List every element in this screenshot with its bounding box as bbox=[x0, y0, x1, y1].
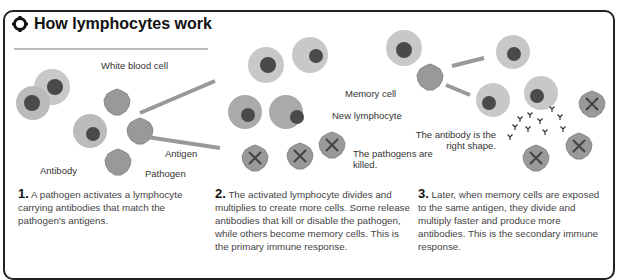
label-new-lymphocyte: New lymphocyte bbox=[332, 110, 402, 121]
step-1-caption: 1. A pathogen activates a lymphocyte car… bbox=[18, 187, 208, 227]
label-antibody-shape: The antibody is the right shape. bbox=[408, 129, 496, 151]
label-white-blood-cell: White blood cell bbox=[101, 60, 168, 71]
label-pathogen: Pathogen bbox=[145, 168, 186, 179]
step-3-caption: 3. Later, when memory cells are exposed … bbox=[418, 187, 603, 253]
label-pathogens-killed: The pathogens are killed. bbox=[353, 148, 443, 170]
label-antibody: Antibody bbox=[40, 165, 77, 176]
label-memory-cell: Memory cell bbox=[345, 88, 396, 99]
label-antigen: Antigen bbox=[165, 148, 197, 159]
lymphocyte-diagram bbox=[0, 0, 620, 190]
step-2-caption: 2. The activated lymphocyte divides and … bbox=[215, 187, 410, 253]
